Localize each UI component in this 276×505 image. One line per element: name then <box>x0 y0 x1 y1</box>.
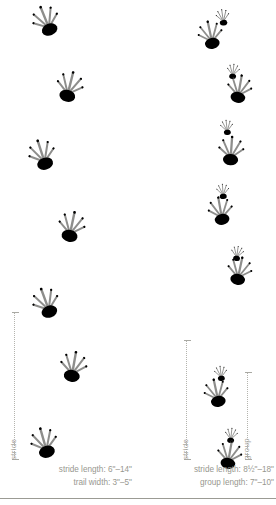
right-front-track <box>210 364 232 386</box>
right-front-track <box>212 182 233 203</box>
right-front-track <box>211 7 235 31</box>
right-front-track <box>216 118 238 140</box>
right-hind-track <box>198 376 235 413</box>
left-caption-block: stride length: 6"–14" trail width: 3"–5" <box>0 464 132 489</box>
right-front-track <box>220 426 242 448</box>
right-hind-track <box>221 73 257 109</box>
left-hind-track <box>51 209 91 249</box>
right-hind-track <box>220 254 257 291</box>
right-stride-top-tick <box>184 340 191 341</box>
bottom-divider <box>0 498 276 499</box>
right-stride-length-label: stride length: 8½"–18" <box>140 464 274 477</box>
right-hind-track <box>192 18 229 55</box>
right-group-length-label: group length: 7"–10" <box>140 477 274 490</box>
left-stride-top-tick <box>12 312 19 313</box>
track-pattern-figure: stridestridegroup stride length: 6"–14" … <box>0 0 276 505</box>
right-front-track <box>222 62 244 84</box>
right-stride-measure-line: stride <box>186 340 188 460</box>
left-hind-track <box>25 1 69 45</box>
left-hind-track <box>48 68 89 109</box>
left-stride-label: stride <box>9 439 18 460</box>
right-hind-track <box>214 136 248 170</box>
left-stride-measure-line: stride <box>14 312 16 460</box>
left-hind-track <box>24 424 66 466</box>
right-stride-label: stride <box>181 439 190 460</box>
right-group-top-tick <box>245 372 252 373</box>
right-front-track <box>226 244 248 266</box>
caption-area: stride length: 6"–14" trail width: 3"–5"… <box>0 464 276 505</box>
right-group-measure-line: group <box>247 372 249 460</box>
left-hind-track <box>53 349 92 388</box>
right-hind-track <box>203 195 239 231</box>
left-hind-track <box>25 283 69 327</box>
left-hind-track <box>22 136 65 179</box>
left-trail-width-label: trail width: 3"–5" <box>0 477 132 490</box>
right-caption-block: stride length: 8½"–18" group length: 7"–… <box>140 464 274 489</box>
left-stride-length-label: stride length: 6"–14" <box>0 464 132 477</box>
right-group-label: group <box>242 438 251 460</box>
